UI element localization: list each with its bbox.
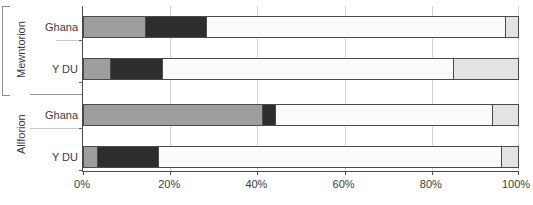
xtick-label-0: 0% [74,178,90,190]
bar-2-segment-1[interactable] [84,59,110,79]
cattick-4 [79,170,83,171]
group-label-mewntorion: Mewntorion [12,6,30,94]
bar-4-segment-1[interactable] [84,147,97,167]
table-row[interactable] [83,58,519,80]
bar-3-segment-1[interactable] [84,105,262,125]
bar-1-segment-2[interactable] [145,17,206,37]
bar-1-segment-1[interactable] [84,17,145,37]
group-separator [30,94,82,95]
bar-3-segment-2[interactable] [262,105,275,125]
cattick-1 [79,40,83,41]
xtick-label-60: 60% [333,178,355,190]
bar-4-segment-3[interactable] [158,147,501,167]
category-separator-lower [30,128,82,129]
row-label-ydu-mewntorion: Y DU [34,63,78,75]
group-bracket-mewntorion [2,6,10,96]
plot-area [82,6,518,172]
xtick-label-100: 100% [502,178,530,190]
stacked-bar-chart: Mewntorion Allforion Ghana Y DU Ghana Y … [0,0,533,205]
table-row[interactable] [83,104,519,126]
bar-1-segment-4[interactable] [505,17,518,37]
xtick-0 [83,171,84,175]
bar-2-segment-4[interactable] [453,59,518,79]
xtick-100 [518,171,519,175]
cattick-3 [79,128,83,129]
bar-2-segment-2[interactable] [110,59,162,79]
cattick-2 [79,82,83,83]
group-label-allforion: Allforion [12,96,30,172]
xtick-label-20: 20% [158,178,180,190]
bar-3-segment-3[interactable] [275,105,492,125]
row-label-ghana-mewntorion: Ghana [34,21,78,33]
xtick-20 [170,171,171,175]
bar-4-segment-4[interactable] [501,147,518,167]
row-label-ghana-allforion: Ghana [34,109,78,121]
xtick-40 [257,171,258,175]
xtick-60 [345,171,346,175]
bar-4-segment-2[interactable] [97,147,158,167]
row-label-ydu-allforion: Y DU [34,151,78,163]
bar-1-segment-3[interactable] [206,17,505,37]
table-row[interactable] [83,146,519,168]
xtick-80 [432,171,433,175]
bar-2-segment-3[interactable] [162,59,453,79]
bar-3-segment-4[interactable] [492,105,518,125]
xtick-label-80: 80% [420,178,442,190]
xtick-label-40: 40% [245,178,267,190]
table-row[interactable] [83,16,519,38]
